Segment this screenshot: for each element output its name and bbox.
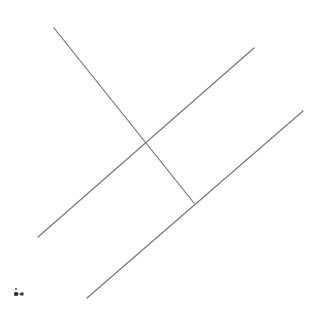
x-axis-marker xyxy=(21,293,24,296)
drawing-viewport[interactable] xyxy=(0,0,321,312)
y-axis-marker xyxy=(15,288,17,290)
origin-marker xyxy=(14,292,18,296)
viewport-background xyxy=(0,0,321,312)
